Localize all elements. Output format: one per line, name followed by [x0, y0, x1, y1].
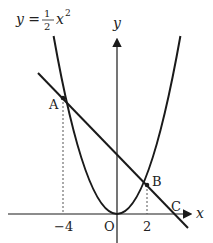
tick-label-neg4: −4: [54, 219, 73, 234]
equation-lhs: y =: [15, 11, 40, 27]
point-b-label: B: [152, 174, 162, 189]
point-a: [61, 96, 66, 101]
point-b: [145, 183, 150, 188]
equation-var: x: [56, 11, 64, 27]
x-axis-label: x: [196, 205, 204, 221]
tick-label-2: 2: [143, 219, 151, 234]
origin-label: O: [104, 219, 115, 234]
parabola-line-diagram: y = 1 2 x 2 y x O −4 2 A B C: [0, 0, 213, 243]
point-a-label: A: [48, 97, 59, 112]
point-c-label: C: [171, 199, 181, 214]
equation-denominator: 2: [44, 21, 50, 32]
equation-numerator: 1: [44, 8, 50, 19]
equation-exponent: 2: [65, 8, 71, 18]
y-axis-label: y: [112, 15, 122, 31]
line-abc: [38, 73, 188, 228]
